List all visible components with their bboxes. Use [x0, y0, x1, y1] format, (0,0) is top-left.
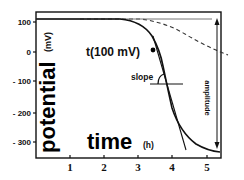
slope-tangent-line — [153, 36, 186, 150]
y-tick-labels: 100 0 - 100 - 200 - 300 — [13, 18, 32, 147]
svg-text:3: 3 — [135, 161, 141, 173]
t100-label: t(100 mV) — [86, 45, 140, 59]
xlabel-unit: (h) — [143, 140, 154, 150]
svg-text:4: 4 — [169, 161, 175, 173]
amplitude-label: amplitude — [203, 80, 212, 115]
svg-text:0: 0 — [27, 48, 32, 57]
x-tick-labels: 1 2 3 4 5 — [67, 161, 210, 173]
svg-text:1: 1 — [67, 161, 73, 173]
svg-text:- 300: - 300 — [13, 138, 32, 147]
svg-text:- 200: - 200 — [13, 109, 32, 118]
slope-label: slope — [131, 72, 153, 82]
svg-text:5: 5 — [204, 161, 210, 173]
svg-text:100: 100 — [18, 18, 32, 27]
potential-time-chart: 100 0 - 100 - 200 - 300 1 2 3 4 5 t(100 … — [0, 0, 244, 180]
svg-text:- 100: - 100 — [13, 77, 32, 86]
svg-text:2: 2 — [101, 161, 107, 173]
ylabel-potential: potential — [35, 61, 60, 153]
t100-marker-dot — [151, 48, 156, 53]
amplitude-arrow — [215, 18, 220, 149]
ylabel-unit: (mV) — [43, 32, 53, 52]
slope-angle-arc — [158, 74, 164, 84]
xlabel-time: time — [87, 129, 132, 154]
